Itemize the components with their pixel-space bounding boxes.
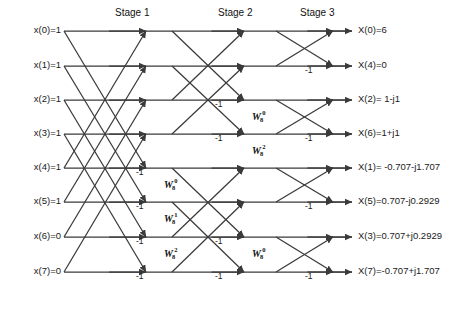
minus-one-label-8: -1 xyxy=(305,66,313,75)
minus-one-label-5: -1 xyxy=(215,134,223,143)
output-label-1: X(4)=0 xyxy=(358,60,387,70)
output-label-3: X(6)=1+j1 xyxy=(358,128,400,138)
output-label-2: X(2)= 1-j1 xyxy=(358,94,400,104)
minus-one-label-4: -1 xyxy=(215,100,223,109)
input-label-0: x(0)=1 xyxy=(34,25,61,35)
input-label-5: x(5)=1 xyxy=(34,196,61,206)
minus-one-label-7: -1 xyxy=(215,272,223,281)
output-label-6: X(3)=0.707+j0.2929 xyxy=(358,231,442,241)
output-label-7: X(7)=-0.707+j1.707 xyxy=(358,266,440,276)
twiddle-label-s1-w2: W82 xyxy=(164,249,179,259)
output-label-5: X(5)=0.707-j0.2929 xyxy=(358,196,440,206)
output-label-0: X(0)=6 xyxy=(358,25,387,35)
twiddle-label-s1-w1: W81 xyxy=(164,214,179,224)
twiddle-label-s2-w0-top: W80 xyxy=(252,112,267,122)
stage-heading-1: Stage 1 xyxy=(115,8,149,18)
minus-one-label-3: -1 xyxy=(136,272,144,281)
twiddle-label-s1-w0: W80 xyxy=(164,180,179,190)
minus-one-label-10: -1 xyxy=(305,202,313,211)
input-label-2: x(2)=1 xyxy=(34,94,61,104)
minus-one-label-9: -1 xyxy=(305,134,313,143)
input-label-6: x(6)=0 xyxy=(34,231,61,241)
minus-one-label-1: -1 xyxy=(136,202,144,211)
minus-one-label-11: -1 xyxy=(305,272,313,281)
output-label-4: X(1)= -0.707-j1.707 xyxy=(358,162,440,172)
minus-one-label-6: -1 xyxy=(215,237,223,246)
input-label-7: x(7)=0 xyxy=(34,266,61,276)
input-label-3: x(3)=1 xyxy=(34,128,61,138)
fft-butterfly-figure: Stage 1Stage 2Stage 3x(0)=1x(1)=1x(2)=1x… xyxy=(0,0,468,314)
input-label-1: x(1)=1 xyxy=(34,60,61,70)
minus-one-label-2: -1 xyxy=(136,237,144,246)
input-label-4: x(4)=1 xyxy=(34,162,61,172)
stage-heading-2: Stage 2 xyxy=(218,8,252,18)
minus-one-label-0: -1 xyxy=(136,168,144,177)
stage-heading-3: Stage 3 xyxy=(300,8,334,18)
twiddle-label-s2-w0-bot: W80 xyxy=(252,249,267,259)
twiddle-label-s2-w2-top: W82 xyxy=(252,146,267,156)
